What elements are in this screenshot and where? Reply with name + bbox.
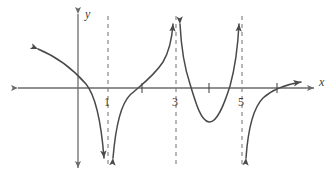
- x-axis-label: x: [319, 76, 324, 88]
- x-tick-label-1: 1: [104, 96, 110, 108]
- rational-function-graph-figure: y x 1 3 5: [0, 0, 332, 179]
- x-tick-label-3: 3: [172, 96, 178, 108]
- x-axis: [18, 83, 314, 93]
- y-axis-label: y: [85, 8, 90, 20]
- branch-3-to-5: [180, 24, 239, 122]
- branch-1-to-3: [113, 24, 173, 158]
- branch-right-of-5: [246, 82, 301, 158]
- branch-left-of-1: [38, 49, 104, 158]
- x-tick-label-5: 5: [238, 96, 244, 108]
- graph-canvas: [0, 0, 332, 179]
- asymptote-group: [108, 16, 242, 166]
